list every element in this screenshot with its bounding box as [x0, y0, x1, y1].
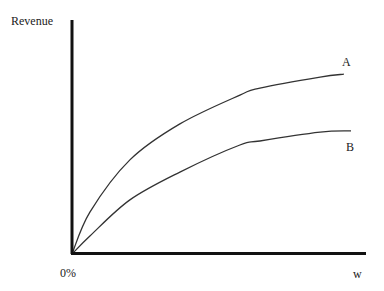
curve-a-line [72, 74, 344, 254]
y-axis-label: Revenue [11, 15, 53, 27]
x-axis-origin-label: 0% [60, 267, 76, 279]
x-axis-end-label: w [353, 268, 362, 280]
curve-b-line [72, 131, 351, 254]
curve-b-label: B [346, 141, 354, 153]
chart-plot-area [0, 0, 384, 291]
curve-a-label: A [342, 56, 351, 68]
